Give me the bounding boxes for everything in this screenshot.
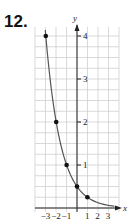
svg-text:1: 1 xyxy=(85,211,90,221)
data-point xyxy=(44,34,49,39)
svg-text:y: y xyxy=(72,13,77,23)
data-point xyxy=(75,184,80,189)
svg-text:3: 3 xyxy=(83,74,88,84)
data-point xyxy=(85,195,90,200)
svg-text:−2: −2 xyxy=(51,211,61,221)
svg-text:3: 3 xyxy=(106,211,111,221)
svg-text:2: 2 xyxy=(95,211,100,221)
svg-text:x: x xyxy=(122,203,127,213)
svg-text:4: 4 xyxy=(83,31,88,41)
axes xyxy=(35,24,122,212)
svg-text:1: 1 xyxy=(83,160,88,170)
exponential-graph: 1234−3−2−1123yx xyxy=(0,0,128,223)
data-point xyxy=(64,163,69,168)
tick-labels: 1234−3−2−1123yx xyxy=(41,13,127,221)
svg-text:−1: −1 xyxy=(62,211,72,221)
data-point xyxy=(54,120,59,125)
svg-text:2: 2 xyxy=(83,117,88,127)
svg-text:−3: −3 xyxy=(41,211,51,221)
